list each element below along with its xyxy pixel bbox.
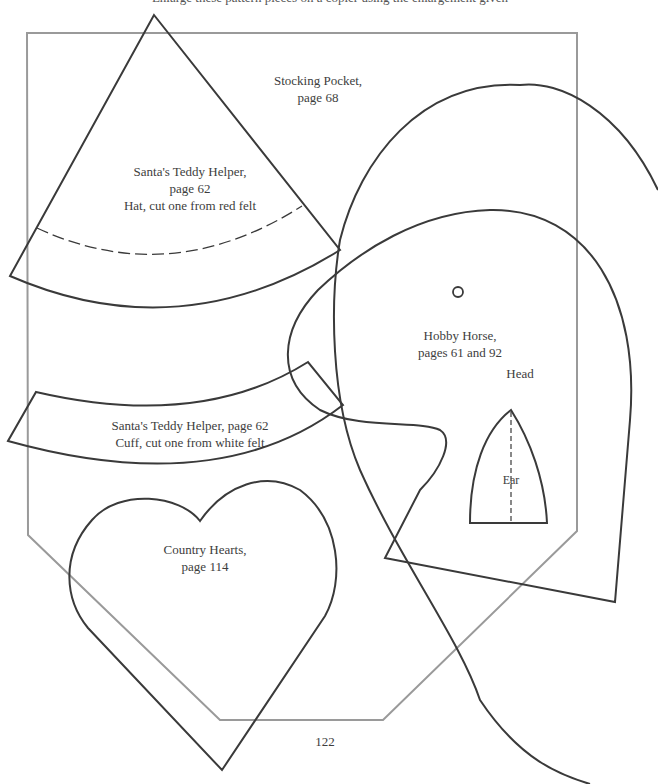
hobby-horse-head-outline bbox=[288, 210, 631, 602]
pattern-page: Enlarge these pattern pieces on a copier… bbox=[0, 0, 658, 784]
teddy-cuff-label: Santa's Teddy Helper, page 62 Cuff, cut … bbox=[80, 417, 300, 451]
teddy-hat-label: Santa's Teddy Helper, page 62 Hat, cut o… bbox=[100, 163, 280, 214]
hobby-horse-head-label: Head bbox=[490, 365, 550, 382]
hobby-horse-ear-label: Ear bbox=[491, 472, 531, 489]
page-number: 122 bbox=[300, 733, 350, 750]
pattern-outlines bbox=[0, 0, 658, 784]
hobby-horse-label: Hobby Horse, pages 61 and 92 bbox=[380, 327, 540, 361]
hobby-horse-eye-hole bbox=[453, 287, 463, 297]
country-heart-outline bbox=[69, 481, 336, 770]
hobby-horse-ear-outline bbox=[470, 410, 547, 523]
hobby-horse-head-outer-curve bbox=[334, 84, 658, 784]
stocking-pocket-label: Stocking Pocket, page 68 bbox=[258, 72, 378, 106]
country-hearts-label: Country Hearts, page 114 bbox=[150, 541, 260, 575]
teddy-hat-outline bbox=[10, 15, 340, 307]
